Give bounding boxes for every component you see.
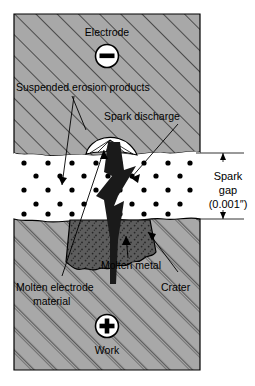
label-spark-gap-line2: gap	[219, 184, 237, 196]
label-spark-discharge: Spark discharge	[104, 110, 180, 122]
edm-spark-gap-diagram: Electrode Suspended erosion products Spa…	[0, 0, 255, 386]
gap-arrow-up-head	[220, 153, 226, 160]
label-molten-electrode-line1: Molten electrode	[16, 281, 94, 293]
label-electrode: Electrode	[85, 26, 130, 38]
work-terminal-symbol	[96, 315, 119, 338]
diagram-canvas: Electrode Suspended erosion products Spa…	[0, 0, 255, 386]
label-work: Work	[95, 344, 120, 356]
minus-icon	[100, 54, 115, 59]
label-suspended-erosion-products: Suspended erosion products	[16, 81, 150, 93]
plus-icon-vertical	[105, 319, 110, 334]
label-crater: Crater	[161, 281, 191, 293]
label-spark-gap-value: (0.001″)	[209, 198, 248, 210]
label-molten-metal: Molten metal	[101, 259, 161, 271]
label-spark-gap-line1: Spark	[214, 170, 243, 182]
gap-arrow-down-head	[220, 212, 226, 219]
electrode-terminal-symbol	[96, 45, 119, 68]
label-molten-electrode-line2: material	[33, 295, 70, 307]
